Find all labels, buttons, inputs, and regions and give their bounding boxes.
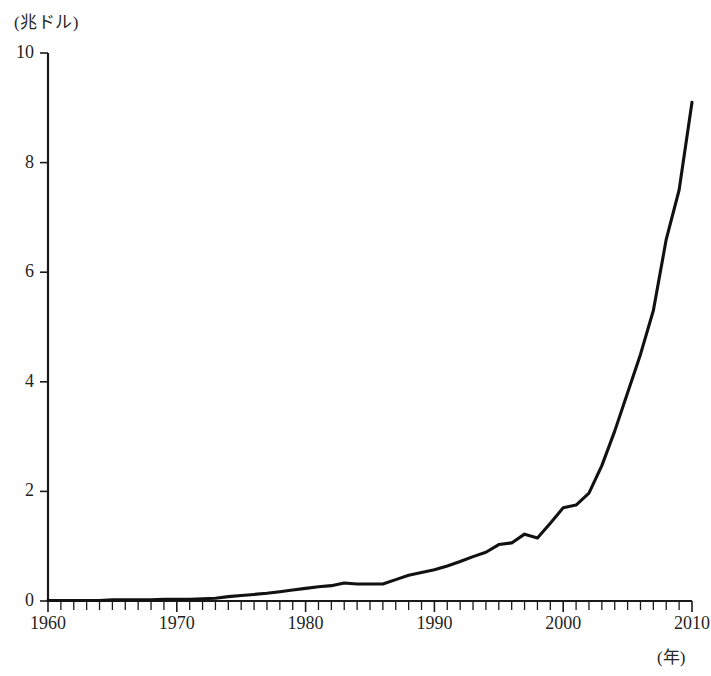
plot-area — [0, 0, 711, 676]
tick-marks — [40, 53, 692, 612]
series-line — [48, 102, 692, 600]
axis-lines — [48, 53, 692, 601]
axes — [48, 53, 692, 601]
data-series — [48, 102, 692, 600]
chart-figure: (兆ドル) (年) 0246810 1960197019801990200020… — [0, 0, 711, 676]
